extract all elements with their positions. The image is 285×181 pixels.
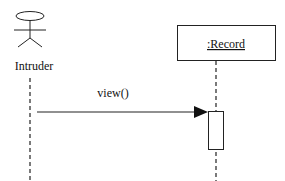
message-arrowhead-icon [194, 106, 208, 118]
message-label: view() [97, 86, 128, 100]
actor-right-leg [30, 38, 42, 47]
actor-left-leg [18, 38, 30, 47]
actor-head [16, 12, 44, 21]
object-label: :Record [207, 37, 245, 51]
actor-icon [14, 12, 46, 48]
sequence-diagram: Intruder :Record view() [0, 0, 285, 181]
activation-bar [209, 112, 224, 150]
actor-label: Intruder [15, 59, 54, 73]
